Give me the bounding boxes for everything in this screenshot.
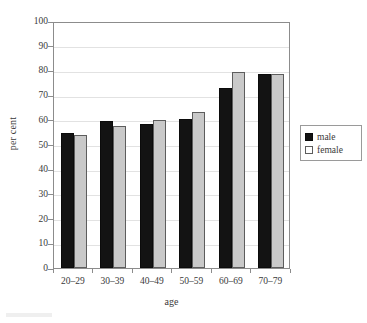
legend-swatch-female-icon [305,146,313,154]
chart-legend: male female [300,125,362,161]
y-axis-title: per cent [7,104,18,164]
x-axis-title: age [53,296,290,307]
gridline [54,220,289,221]
y-tick-label: 50 [8,141,48,151]
y-tick-label: 60 [8,116,48,126]
gridline [54,121,289,122]
x-tick-label: 20–29 [51,276,95,287]
legend-swatch-male-icon [305,133,313,141]
bar-chart: per cent 0102030405060708090100 20–2930–… [0,0,367,323]
y-tick-label: 30 [8,190,48,200]
bar-female-40-49 [153,120,166,268]
y-tick-label: 10 [8,239,48,249]
gridline [54,72,289,73]
bar-female-20-29 [74,135,87,268]
gridline [54,171,289,172]
bar-male-50-59 [179,119,192,268]
bar-male-70-79 [258,74,271,268]
gridline [54,47,289,48]
x-tick-mark [53,269,54,273]
y-tick-label: 90 [8,42,48,52]
x-tick-label: 50–59 [169,276,213,287]
scan-artifact [6,313,52,317]
bar-male-40-49 [140,124,153,268]
x-tick-mark [211,269,212,273]
bar-male-60-69 [219,88,232,268]
x-tick-mark [250,269,251,273]
gridline [54,195,289,196]
gridline [54,146,289,147]
x-tick-label: 60–69 [209,276,253,287]
y-tick-label: 70 [8,91,48,101]
x-tick-mark [132,269,133,273]
x-tick-mark [92,269,93,273]
legend-label-female: female [317,145,343,155]
bar-male-20-29 [61,133,74,268]
legend-label-male: male [317,132,335,142]
x-tick-mark [171,269,172,273]
x-tick-label: 70–79 [248,276,292,287]
bar-female-70-79 [271,74,284,268]
plot-area [53,22,290,269]
y-tick-label: 20 [8,215,48,225]
bar-male-30-39 [100,121,113,268]
x-tick-mark [290,269,291,273]
y-tick-label: 80 [8,66,48,76]
gridline [54,245,289,246]
legend-item-male: male [305,130,358,143]
y-tick-label: 100 [8,17,48,27]
bar-female-60-69 [232,72,245,268]
gridline [54,97,289,98]
bar-female-50-59 [192,112,205,268]
x-tick-label: 30–39 [90,276,134,287]
legend-item-female: female [305,143,358,156]
y-tick-label: 40 [8,165,48,175]
bar-female-30-39 [113,126,126,268]
y-tick-label: 0 [8,264,48,274]
x-tick-label: 40–49 [130,276,174,287]
